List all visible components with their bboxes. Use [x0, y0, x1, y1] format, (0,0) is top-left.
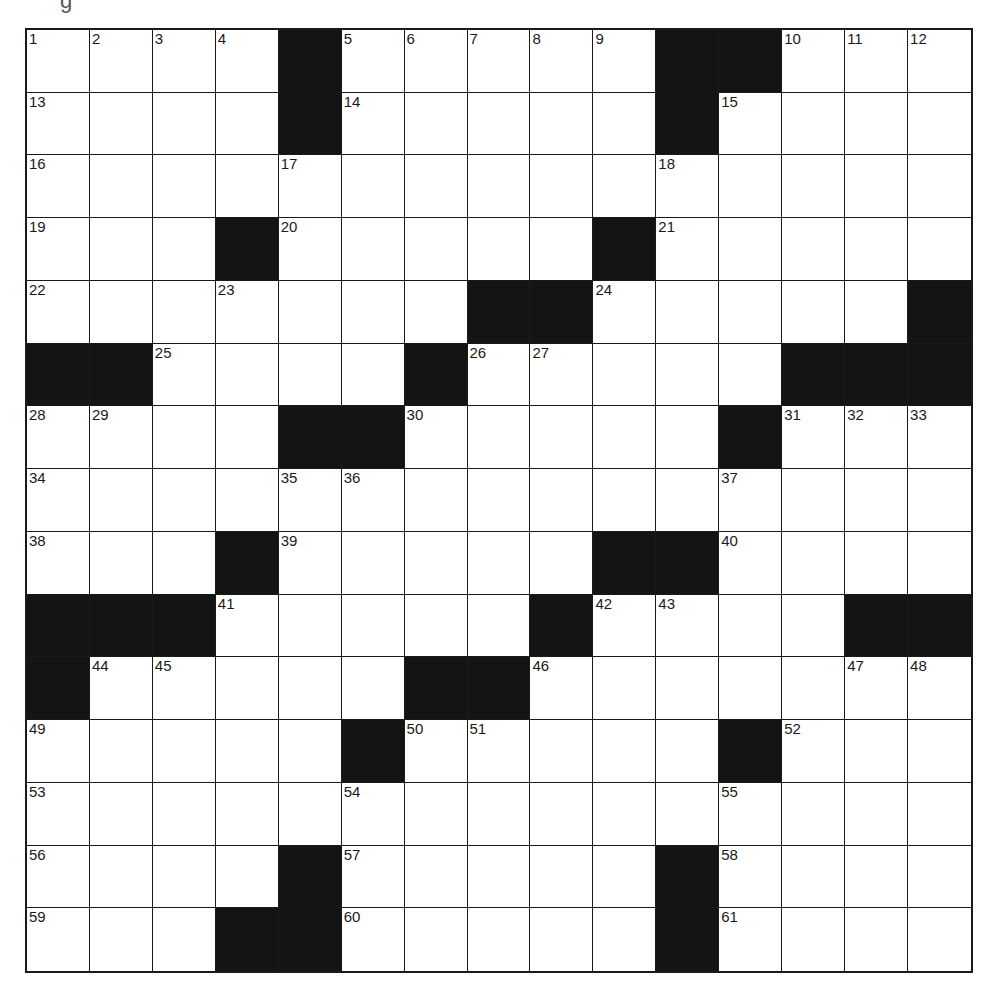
- grid-cell[interactable]: [782, 281, 845, 344]
- grid-cell[interactable]: 45: [153, 657, 216, 720]
- grid-cell[interactable]: [405, 783, 468, 846]
- grid-cell[interactable]: [216, 720, 279, 783]
- grid-cell[interactable]: [782, 93, 845, 156]
- grid-cell[interactable]: [593, 406, 656, 469]
- grid-cell[interactable]: [782, 846, 845, 909]
- grid-cell[interactable]: [468, 155, 531, 218]
- grid-cell[interactable]: 49: [27, 720, 90, 783]
- grid-cell[interactable]: [719, 155, 782, 218]
- grid-cell[interactable]: [656, 469, 719, 532]
- grid-cell[interactable]: [719, 657, 782, 720]
- grid-cell[interactable]: 18: [656, 155, 719, 218]
- grid-cell[interactable]: [908, 720, 971, 783]
- grid-cell[interactable]: [468, 846, 531, 909]
- grid-cell[interactable]: [845, 720, 908, 783]
- grid-cell[interactable]: [153, 783, 216, 846]
- grid-cell[interactable]: 2: [90, 30, 153, 93]
- grid-cell[interactable]: [656, 281, 719, 344]
- grid-cell[interactable]: [656, 344, 719, 407]
- grid-cell[interactable]: [90, 720, 153, 783]
- grid-cell[interactable]: 52: [782, 720, 845, 783]
- grid-cell[interactable]: [405, 532, 468, 595]
- grid-cell[interactable]: [593, 720, 656, 783]
- grid-cell[interactable]: 9: [593, 30, 656, 93]
- grid-cell[interactable]: [405, 469, 468, 532]
- grid-cell[interactable]: [530, 155, 593, 218]
- grid-cell[interactable]: [216, 469, 279, 532]
- grid-cell[interactable]: 15: [719, 93, 782, 156]
- grid-cell[interactable]: 19: [27, 218, 90, 281]
- grid-cell[interactable]: 27: [530, 344, 593, 407]
- grid-cell[interactable]: 34: [27, 469, 90, 532]
- grid-cell[interactable]: [468, 406, 531, 469]
- grid-cell[interactable]: [656, 783, 719, 846]
- grid-cell[interactable]: 32: [845, 406, 908, 469]
- grid-cell[interactable]: [530, 783, 593, 846]
- grid-cell[interactable]: 54: [342, 783, 405, 846]
- grid-cell[interactable]: [845, 532, 908, 595]
- grid-cell[interactable]: 57: [342, 846, 405, 909]
- grid-cell[interactable]: 23: [216, 281, 279, 344]
- grid-cell[interactable]: 7: [468, 30, 531, 93]
- grid-cell[interactable]: 33: [908, 406, 971, 469]
- grid-cell[interactable]: 1: [27, 30, 90, 93]
- grid-cell[interactable]: [656, 406, 719, 469]
- grid-cell[interactable]: [216, 406, 279, 469]
- grid-cell[interactable]: [908, 155, 971, 218]
- grid-cell[interactable]: 41: [216, 595, 279, 658]
- grid-cell[interactable]: 47: [845, 657, 908, 720]
- grid-cell[interactable]: 43: [656, 595, 719, 658]
- grid-cell[interactable]: [908, 469, 971, 532]
- grid-cell[interactable]: [530, 720, 593, 783]
- grid-cell[interactable]: [468, 783, 531, 846]
- grid-cell[interactable]: 6: [405, 30, 468, 93]
- grid-cell[interactable]: 13: [27, 93, 90, 156]
- grid-cell[interactable]: [468, 469, 531, 532]
- grid-cell[interactable]: [342, 155, 405, 218]
- grid-cell[interactable]: [279, 720, 342, 783]
- grid-cell[interactable]: 42: [593, 595, 656, 658]
- grid-cell[interactable]: [90, 469, 153, 532]
- grid-cell[interactable]: [908, 908, 971, 971]
- grid-cell[interactable]: [908, 783, 971, 846]
- grid-cell[interactable]: [593, 93, 656, 156]
- grid-cell[interactable]: [153, 155, 216, 218]
- grid-cell[interactable]: [90, 281, 153, 344]
- grid-cell[interactable]: [216, 155, 279, 218]
- grid-cell[interactable]: [153, 532, 216, 595]
- grid-cell[interactable]: [782, 595, 845, 658]
- grid-cell[interactable]: 17: [279, 155, 342, 218]
- grid-cell[interactable]: 31: [782, 406, 845, 469]
- grid-cell[interactable]: 59: [27, 908, 90, 971]
- grid-cell[interactable]: 58: [719, 846, 782, 909]
- grid-cell[interactable]: [342, 595, 405, 658]
- grid-cell[interactable]: [216, 846, 279, 909]
- grid-cell[interactable]: 4: [216, 30, 279, 93]
- grid-cell[interactable]: [153, 406, 216, 469]
- grid-cell[interactable]: [342, 657, 405, 720]
- grid-cell[interactable]: [593, 155, 656, 218]
- grid-cell[interactable]: [153, 720, 216, 783]
- grid-cell[interactable]: [593, 344, 656, 407]
- grid-cell[interactable]: [279, 595, 342, 658]
- grid-cell[interactable]: [405, 281, 468, 344]
- grid-cell[interactable]: [845, 218, 908, 281]
- grid-cell[interactable]: [90, 93, 153, 156]
- grid-cell[interactable]: [468, 595, 531, 658]
- grid-cell[interactable]: 25: [153, 344, 216, 407]
- grid-cell[interactable]: [782, 155, 845, 218]
- grid-cell[interactable]: [593, 783, 656, 846]
- grid-cell[interactable]: [593, 469, 656, 532]
- grid-cell[interactable]: [845, 783, 908, 846]
- grid-cell[interactable]: 22: [27, 281, 90, 344]
- grid-cell[interactable]: [468, 532, 531, 595]
- grid-cell[interactable]: [908, 846, 971, 909]
- grid-cell[interactable]: 51: [468, 720, 531, 783]
- grid-cell[interactable]: 14: [342, 93, 405, 156]
- grid-cell[interactable]: [530, 93, 593, 156]
- grid-cell[interactable]: [279, 344, 342, 407]
- grid-cell[interactable]: 35: [279, 469, 342, 532]
- grid-cell[interactable]: [342, 344, 405, 407]
- grid-cell[interactable]: [90, 846, 153, 909]
- grid-cell[interactable]: [530, 406, 593, 469]
